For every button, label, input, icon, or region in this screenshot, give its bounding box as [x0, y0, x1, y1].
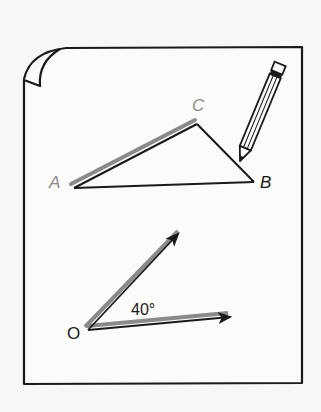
- vertex-label-o: O: [67, 325, 80, 342]
- figure: A B C O 40°: [0, 0, 321, 412]
- vertex-label-b: B: [260, 174, 271, 191]
- vertex-label-c: C: [192, 97, 204, 114]
- vertex-label-a: A: [49, 174, 60, 191]
- angle-value-label: 40°: [131, 302, 155, 318]
- diagram-canvas: [0, 0, 321, 412]
